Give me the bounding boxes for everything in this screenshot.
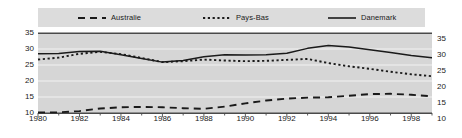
x-axis-tick-label: 1986 [149,114,175,123]
x-axis-tick-label: 1990 [232,114,258,123]
legend-label-pays-bas: Pays-Bas [236,13,269,22]
legend-swatch-solid [328,14,356,22]
y-axis-tick-label-right: 20 [437,82,459,91]
x-axis-tick-label: 1996 [357,114,383,123]
x-axis-tick-label: 1982 [66,114,92,123]
x-axis-tick-label: 1998 [398,114,424,123]
chart-figure: Australie Pays-Bas Danemark 353025201510… [0,0,462,138]
plot-area [38,33,432,113]
legend-item-australie: Australie [78,8,141,27]
x-axis-tick-label: 1992 [274,114,300,123]
legend-swatch-dashed [78,14,106,22]
x-axis-tick-label: 1994 [315,114,341,123]
y-axis-tick-label-left: 20 [12,76,34,85]
data-series-layer [38,45,432,112]
y-axis-tick-label-right: 30 [437,50,459,59]
x-axis-tick-label: 1984 [108,114,134,123]
gridlines [38,33,432,113]
y-axis-tick-label-left: 30 [12,44,34,53]
legend-label-australie: Australie [111,13,141,22]
y-axis-tick-label-left: 15 [12,92,34,101]
legend-swatch-dotted [203,14,231,22]
y-axis-tick-label-left: 35 [12,28,34,37]
y-axis-tick-label-right: 25 [437,66,459,75]
series-line-danemark [38,45,432,62]
x-axis-tick-label: 1988 [191,114,217,123]
legend-item-pays-bas: Pays-Bas [203,8,269,27]
legend-label-danemark: Danemark [361,13,396,22]
x-axis-tick-label: 1980 [25,114,51,123]
y-axis-tick-label-right: 15 [437,98,459,107]
chart-legend: Australie Pays-Bas Danemark [38,8,425,27]
y-axis-tick-label-right: 35 [437,34,459,43]
y-axis-tick-label-left: 25 [12,60,34,69]
legend-item-danemark: Danemark [328,8,396,27]
y-axis-tick-label-right: 10 [437,114,459,123]
